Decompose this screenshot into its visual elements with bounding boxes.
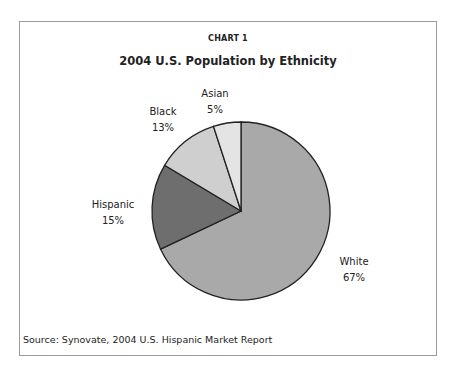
source-note: Source: Synovate, 2004 U.S. Hispanic Mar… <box>23 334 272 345</box>
label-hispanic-pct: 15% <box>78 213 148 229</box>
label-white-pct: 67% <box>329 270 379 286</box>
label-black: Black 13% <box>138 104 188 136</box>
label-white-name: White <box>329 254 379 270</box>
pie-chart <box>0 0 456 381</box>
label-white: White 67% <box>329 254 379 286</box>
label-black-name: Black <box>138 104 188 120</box>
label-asian-name: Asian <box>190 86 240 102</box>
label-asian: Asian 5% <box>190 86 240 118</box>
label-hispanic-name: Hispanic <box>78 197 148 213</box>
label-asian-pct: 5% <box>190 102 240 118</box>
label-black-pct: 13% <box>138 120 188 136</box>
label-hispanic: Hispanic 15% <box>78 197 148 229</box>
